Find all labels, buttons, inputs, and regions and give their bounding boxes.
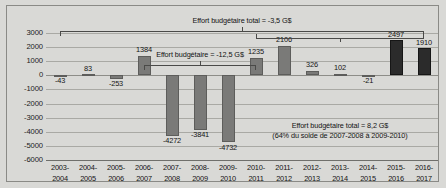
gridline bbox=[46, 118, 438, 119]
bar-value-label: -253 bbox=[96, 80, 136, 88]
bar bbox=[166, 75, 179, 135]
annotation-bracket-effort-deficit bbox=[144, 65, 256, 70]
x-axis-tick-labels: 2003-20042004-20052005-20062006-20072007… bbox=[46, 163, 438, 188]
annotation-tick bbox=[242, 27, 243, 31]
bar bbox=[110, 75, 123, 79]
y-tick-label: 1000 bbox=[9, 57, 43, 65]
y-tick-label: -6000 bbox=[9, 156, 43, 164]
chart-frame: 3000200010000-1000-2000-3000-4000-5000-6… bbox=[6, 5, 439, 182]
x-tick-label: 2016-2017 bbox=[405, 163, 443, 184]
bar bbox=[306, 71, 319, 76]
bar bbox=[334, 74, 347, 76]
annotation-total-overall: Effort budgétaire total = -3,5 G$ bbox=[162, 16, 322, 25]
plot-area: -4383-2531384-4272-3841-4732123521063261… bbox=[46, 33, 438, 160]
y-tick-label: 3000 bbox=[9, 29, 43, 37]
annotation-tick bbox=[340, 38, 341, 42]
annotation-tick bbox=[200, 61, 201, 65]
bar bbox=[222, 75, 235, 142]
y-tick-label: -5000 bbox=[9, 142, 43, 150]
annotation-effort-deficit: Effort budgétaire = -12,5 G$ bbox=[130, 50, 270, 59]
bar-value-label: -4732 bbox=[208, 144, 248, 152]
chart-figure: 3000200010000-1000-2000-3000-4000-5000-6… bbox=[0, 0, 446, 188]
bar bbox=[194, 75, 207, 129]
y-tick-label: -2000 bbox=[9, 100, 43, 108]
bar-value-label: 1910 bbox=[404, 39, 444, 47]
bar bbox=[278, 46, 291, 76]
gridline bbox=[46, 160, 438, 161]
y-axis-tick-labels: 3000200010000-1000-2000-3000-4000-5000-6… bbox=[7, 33, 43, 160]
bar bbox=[390, 40, 403, 75]
y-tick-label: -3000 bbox=[9, 114, 43, 122]
annotation-total-surplus-subtext: (64% du solde de 2007-2008 à 2009-2010) bbox=[250, 131, 430, 140]
bar-value-label: 83 bbox=[68, 65, 108, 73]
bar bbox=[82, 74, 95, 76]
bar bbox=[418, 48, 431, 75]
gridline bbox=[46, 61, 438, 62]
bar-value-label: -3841 bbox=[180, 131, 220, 139]
gridline bbox=[46, 104, 438, 105]
y-tick-label: -1000 bbox=[9, 85, 43, 93]
y-tick-label: 0 bbox=[9, 71, 43, 79]
bar-value-label: -43 bbox=[40, 77, 80, 85]
bar-value-label: -21 bbox=[348, 77, 388, 85]
annotation-total-surplus: Effort budgétaire total = 8,2 G$ bbox=[260, 121, 420, 130]
y-tick-label: -4000 bbox=[9, 128, 43, 136]
bar-value-label: 102 bbox=[320, 64, 360, 72]
gridline bbox=[46, 89, 438, 90]
y-tick-label: 2000 bbox=[9, 43, 43, 51]
